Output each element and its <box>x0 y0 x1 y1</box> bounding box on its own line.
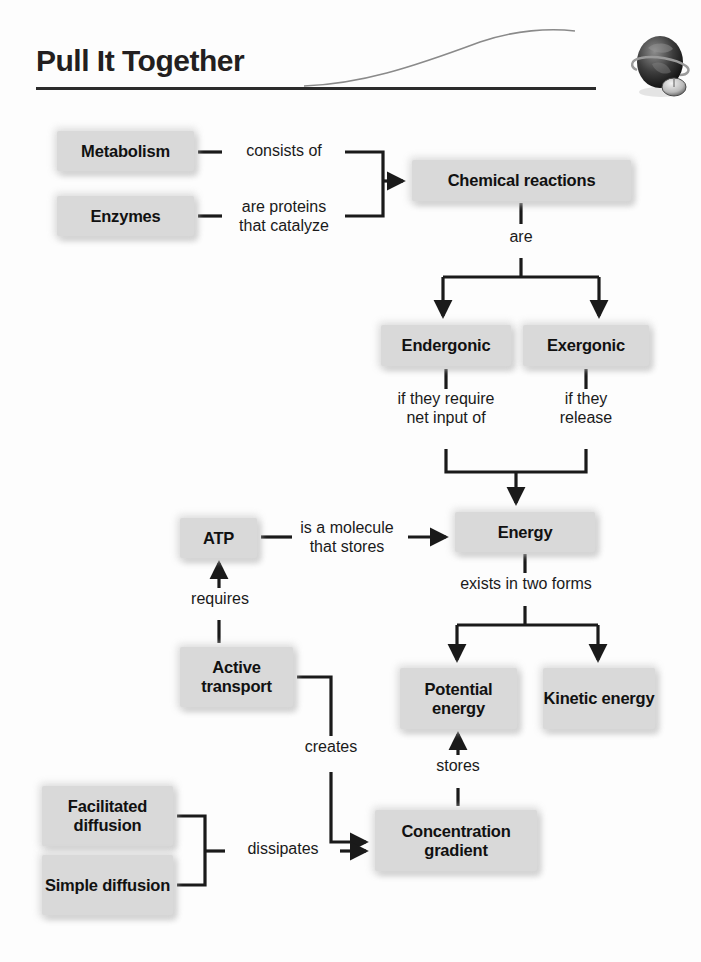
node-label: ATP <box>203 529 234 548</box>
node-label: Endergonic <box>402 336 491 355</box>
node-exergonic[interactable]: Exergonic <box>523 325 649 366</box>
decorative-swoosh <box>300 28 630 90</box>
node-active-transport[interactable]: Active transport <box>180 647 293 707</box>
globe-with-mouse-icon <box>628 32 692 104</box>
node-energy[interactable]: Energy <box>455 512 595 552</box>
node-label: Active transport <box>180 658 293 696</box>
edge-label-are: are <box>491 228 551 247</box>
node-endergonic[interactable]: Endergonic <box>381 325 511 366</box>
node-label: Exergonic <box>547 336 625 355</box>
node-concentration-gradient[interactable]: Concentration gradient <box>375 810 537 871</box>
node-label: Energy <box>498 523 553 542</box>
node-label: Facilitated diffusion <box>42 797 173 835</box>
node-label: Enzymes <box>90 207 160 226</box>
edge-label-is-a-molecule-that-stores: is a molecule that stores <box>281 519 413 557</box>
edge-label-consists-of: consists of <box>222 142 346 161</box>
edge-label-dissipates: dissipates <box>227 840 339 859</box>
node-simple-diffusion[interactable]: Simple diffusion <box>42 855 173 915</box>
edge-label-exists-in-two-forms: exists in two forms <box>438 575 614 594</box>
pull-it-together-page: Pull It Together <box>0 0 701 962</box>
node-chemical-reactions[interactable]: Chemical reactions <box>412 160 631 201</box>
edge-label-requires: requires <box>174 590 266 609</box>
edge-label-creates: creates <box>287 738 375 757</box>
node-label: Metabolism <box>81 142 170 161</box>
node-atp[interactable]: ATP <box>180 518 257 558</box>
node-metabolism[interactable]: Metabolism <box>57 131 194 171</box>
edge-label-if-they-release: if they release <box>528 390 644 428</box>
edge-label-are-proteins-that-catalyze: are proteins that catalyze <box>222 198 346 236</box>
header-divider <box>36 87 596 90</box>
node-label: Kinetic energy <box>544 689 655 708</box>
node-facilitated-diffusion[interactable]: Facilitated diffusion <box>42 786 173 846</box>
node-potential-energy[interactable]: Potential energy <box>400 668 517 729</box>
node-label: Potential energy <box>400 680 517 718</box>
node-label: Chemical reactions <box>448 171 596 190</box>
node-enzymes[interactable]: Enzymes <box>57 196 194 236</box>
node-label: Concentration gradient <box>375 822 537 860</box>
node-kinetic-energy[interactable]: Kinetic energy <box>543 668 655 729</box>
edge-label-stores: stores <box>418 757 498 776</box>
edge-label-if-they-require-net-input-of: if they require net input of <box>373 390 519 428</box>
node-label: Simple diffusion <box>45 876 170 895</box>
page-title: Pull It Together <box>36 44 244 78</box>
